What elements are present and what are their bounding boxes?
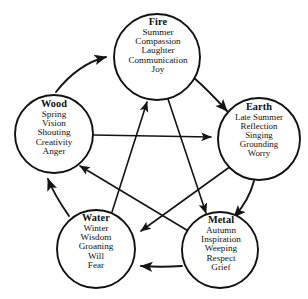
attribute-item: Anger (10, 147, 98, 156)
node-label-metal: Metal Autumn Inspiration Weeping Respect… (178, 215, 264, 272)
five-elements-diagram: Fire Summer Compassion Laughter Communic… (0, 0, 308, 299)
node-label-earth: Earth Late Summer Reflection Singing Gro… (211, 102, 307, 158)
arrow-wood-to-earth (93, 135, 211, 137)
node-label-wood: Wood Spring Vision Shouting Creativity A… (10, 99, 98, 156)
arrow-water-to-wood (48, 179, 69, 216)
node-attributes-water: Winter Wisdom Groaning Will Fear (52, 224, 140, 270)
node-title-earth: Earth (211, 102, 307, 112)
node-attributes-earth: Late Summer Reflection Singing Grounding… (211, 113, 307, 158)
attribute-item: Worry (211, 149, 307, 158)
node-attributes-metal: Autumn Inspiration Weeping Respect Grief (178, 226, 264, 272)
attribute-item: Joy (112, 65, 204, 74)
node-title-fire: Fire (112, 17, 204, 27)
node-label-fire: Fire Summer Compassion Laughter Communic… (112, 17, 204, 74)
node-title-water: Water (52, 213, 140, 223)
node-attributes-fire: Summer Compassion Laughter Communication… (112, 28, 204, 74)
arrow-earth-to-metal (234, 181, 254, 217)
arrow-wood-to-fire (56, 57, 106, 92)
arrow-metal-to-water (141, 266, 182, 267)
attribute-item: Fear (52, 261, 140, 270)
node-title-wood: Wood (10, 99, 98, 109)
node-label-water: Water Winter Wisdom Groaning Will Fear (52, 213, 140, 270)
node-title-metal: Metal (178, 215, 264, 225)
attribute-item: Grief (178, 263, 264, 272)
node-attributes-wood: Spring Vision Shouting Creativity Anger (10, 110, 98, 156)
arrow-fire-to-metal (168, 99, 206, 213)
